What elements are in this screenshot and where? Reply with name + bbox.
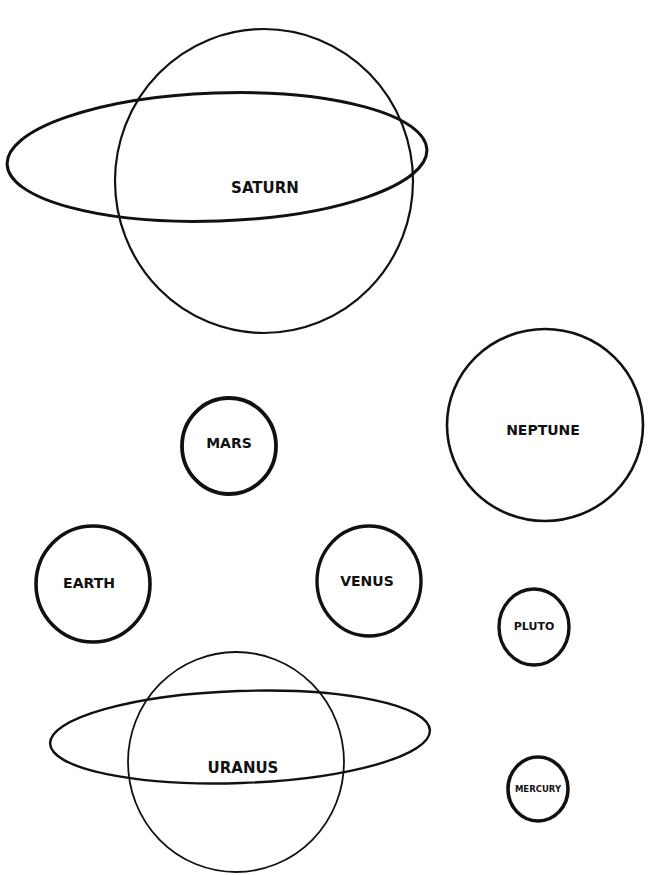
planets-diagram: SATURN NEPTUNE MARS EARTH VENUS PLUTO UR… xyxy=(0,0,653,875)
planet-pluto: PLUTO xyxy=(499,589,569,665)
earth-label: EARTH xyxy=(63,575,115,591)
planet-uranus: URANUS xyxy=(49,652,432,872)
planet-saturn: SATURN xyxy=(5,29,429,333)
venus-label: VENUS xyxy=(340,573,394,589)
mercury-label: MERCURY xyxy=(515,784,562,794)
uranus-label: URANUS xyxy=(208,759,279,777)
saturn-label: SATURN xyxy=(231,179,299,197)
planet-earth: EARTH xyxy=(36,526,150,642)
planet-neptune: NEPTUNE xyxy=(447,329,643,521)
planet-mars: MARS xyxy=(182,398,276,494)
planet-venus: VENUS xyxy=(317,526,421,636)
pluto-label: PLUTO xyxy=(514,620,554,633)
neptune-label: NEPTUNE xyxy=(506,422,580,438)
saturn-ring xyxy=(5,86,429,229)
planet-mercury: MERCURY xyxy=(508,757,568,821)
mars-label: MARS xyxy=(206,435,252,451)
